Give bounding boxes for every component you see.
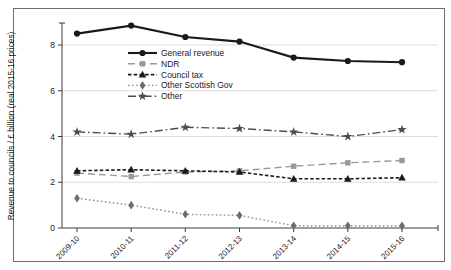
circle-marker-icon <box>345 58 351 64</box>
diamond-marker-icon <box>399 221 405 230</box>
diamond-marker-icon <box>128 201 134 210</box>
legend-label-council-tax: Council tax <box>161 70 204 80</box>
diamond-marker-icon <box>140 81 146 90</box>
legend-label-general-revenue: General revenue <box>161 48 225 58</box>
x-tick-label: 2013-14 <box>271 234 299 262</box>
x-tick-label: 2015-16 <box>379 234 407 262</box>
square-marker-icon <box>399 158 404 163</box>
square-marker-icon <box>140 61 145 66</box>
legend-entry-general-revenue: General revenue <box>128 48 225 58</box>
circle-marker-icon <box>236 38 242 44</box>
x-tick-label: 2012-13 <box>217 234 245 262</box>
square-marker-icon <box>345 160 350 165</box>
legend-entry-other-scottish-gov: Other Scottish Gov <box>128 80 234 90</box>
y-tick-label: 0 <box>50 223 55 233</box>
y-axis-title: Revenue to councils / £ billion (real 20… <box>6 31 16 220</box>
x-tick-label: 2009-10 <box>54 234 82 262</box>
figure-border <box>14 9 445 262</box>
diamond-marker-icon <box>182 210 188 219</box>
diamond-marker-icon <box>345 221 351 230</box>
circle-marker-icon <box>399 59 405 65</box>
y-tick-label: 8 <box>50 40 55 50</box>
triangle-marker-icon <box>398 174 406 181</box>
y-tick-label: 4 <box>50 132 55 142</box>
series-other <box>72 122 406 140</box>
legend-label-ndr: NDR <box>161 59 179 69</box>
legend-entry-council-tax: Council tax <box>128 70 204 80</box>
revenue-chart-canvas: Revenue to councils / £ billion (real 20… <box>0 0 451 270</box>
x-tick-label: 2010-11 <box>109 234 136 261</box>
y-tick-label: 2 <box>50 177 55 187</box>
diamond-marker-icon <box>74 194 80 203</box>
legend-entry-ndr: NDR <box>128 59 179 69</box>
revenue-chart-figure: Revenue to councils / £ billion (real 20… <box>0 0 451 270</box>
legend-label-other-scottish-gov: Other Scottish Gov <box>161 80 234 90</box>
square-marker-icon <box>291 164 296 169</box>
series-other-scottish-gov <box>74 194 405 230</box>
circle-marker-icon <box>291 54 297 60</box>
legend-label-other: Other <box>161 91 182 101</box>
x-tick-label: 2011-12 <box>163 234 190 261</box>
circle-marker-icon <box>74 30 80 36</box>
diamond-marker-icon <box>237 211 243 220</box>
series-general-revenue <box>74 22 405 65</box>
circle-marker-icon <box>139 50 145 56</box>
legend-entry-other: Other <box>128 91 182 101</box>
series-council-tax <box>73 166 406 182</box>
circle-marker-icon <box>128 22 134 28</box>
square-marker-icon <box>128 174 133 179</box>
circle-marker-icon <box>182 34 188 40</box>
x-tick-label: 2014-15 <box>325 234 353 262</box>
y-tick-label: 6 <box>50 86 55 96</box>
legend: General revenueNDRCouncil taxOther Scott… <box>128 48 234 101</box>
diamond-marker-icon <box>291 221 297 230</box>
star-marker-icon <box>397 125 406 134</box>
